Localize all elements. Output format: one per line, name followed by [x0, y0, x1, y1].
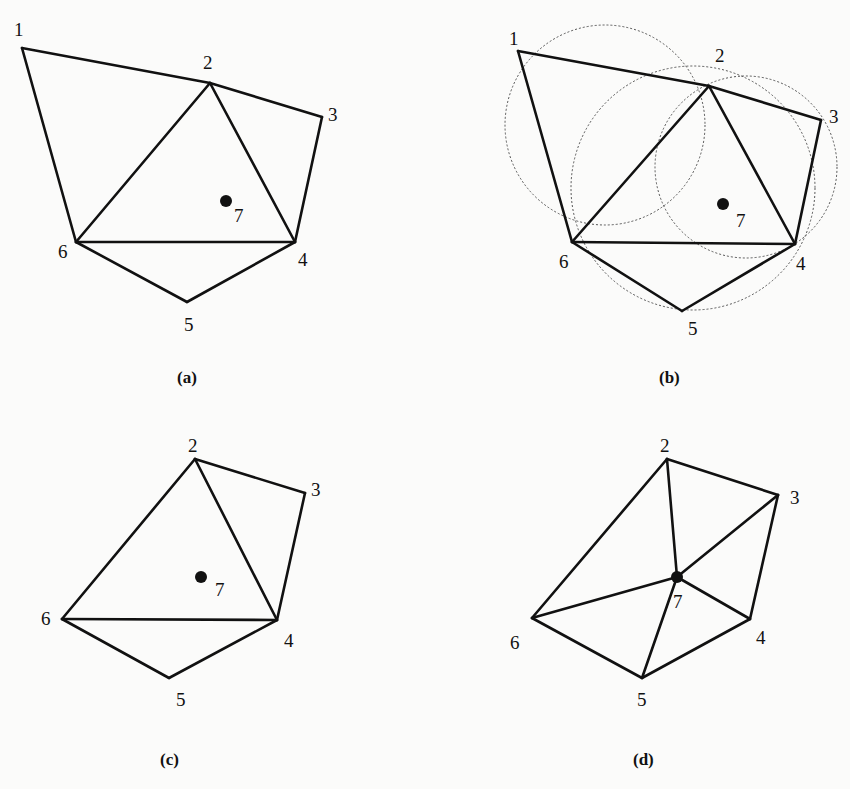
edge-6-4 [572, 242, 795, 244]
edge-7-4 [677, 577, 750, 619]
edge-2-4 [210, 83, 295, 242]
panel-caption: (a) [177, 368, 197, 387]
edge-2-4 [195, 459, 277, 620]
vertex-label-3: 3 [829, 106, 839, 127]
vertex-label-6: 6 [58, 241, 68, 262]
edge-2-4 [709, 86, 795, 244]
vertex-label-5: 5 [637, 689, 647, 710]
vertex-label-4: 4 [284, 630, 294, 651]
panel-caption: (d) [633, 750, 654, 769]
vertex-label-4: 4 [756, 627, 766, 648]
vertex-label-7: 7 [673, 591, 683, 612]
edge-2-6 [76, 83, 210, 242]
edge-5-6 [532, 618, 642, 678]
edge-4-5 [169, 620, 277, 678]
vertex-label-3: 3 [311, 479, 321, 500]
edge-5-6 [76, 242, 187, 302]
panel-c: 234567(c) [41, 435, 321, 769]
delaunay-insertion-diagram: 1234567(a)1234567(b)234567(c)234567(d) [0, 0, 850, 789]
edge-3-4 [295, 117, 322, 242]
panel-caption: (b) [659, 368, 680, 387]
panel-caption: (c) [160, 750, 179, 769]
inserted-point-7 [195, 571, 207, 583]
vertex-label-7: 7 [234, 205, 244, 226]
edge-6-4 [62, 619, 277, 620]
vertex-label-2: 2 [188, 435, 198, 456]
inserted-point-7 [220, 195, 232, 207]
vertex-label-7: 7 [736, 210, 746, 231]
edge-1-2 [518, 51, 709, 86]
vertex-label-6: 6 [41, 608, 51, 629]
inserted-point-7 [717, 198, 729, 210]
edge-5-6 [62, 619, 169, 678]
panel-a: 1234567(a) [14, 19, 338, 387]
edge-3-4 [795, 120, 821, 244]
vertex-label-1: 1 [14, 19, 24, 40]
edge-7-6 [532, 577, 677, 618]
vertex-label-5: 5 [688, 318, 698, 339]
vertex-label-3: 3 [328, 104, 338, 125]
edge-2-3 [195, 459, 305, 493]
vertex-label-7: 7 [215, 579, 225, 600]
vertex-label-6: 6 [510, 632, 520, 653]
vertex-label-1: 1 [509, 28, 519, 49]
vertex-label-2: 2 [715, 45, 725, 66]
vertex-label-2: 2 [203, 52, 213, 73]
inserted-point-7 [671, 571, 683, 583]
edge-5-6 [572, 242, 682, 311]
edge-4-5 [187, 242, 295, 302]
vertex-label-5: 5 [176, 689, 186, 710]
vertex-label-4: 4 [796, 253, 806, 274]
edge-2-3 [667, 459, 778, 495]
vertex-label-2: 2 [660, 435, 670, 456]
vertex-label-5: 5 [184, 314, 194, 335]
circumcircle [655, 76, 837, 258]
edge-1-2 [22, 48, 210, 83]
panel-d: 234567(d) [510, 435, 800, 769]
vertex-label-3: 3 [790, 487, 800, 508]
vertex-label-6: 6 [559, 251, 569, 272]
edge-2-6 [62, 459, 195, 619]
panel-b: 1234567(b) [505, 25, 839, 387]
vertex-label-4: 4 [298, 249, 308, 270]
edge-6-1 [22, 48, 76, 242]
edge-6-2 [532, 459, 667, 618]
edge-6-1 [518, 51, 572, 242]
edge-7-2 [667, 459, 677, 577]
edge-3-4 [277, 493, 305, 620]
